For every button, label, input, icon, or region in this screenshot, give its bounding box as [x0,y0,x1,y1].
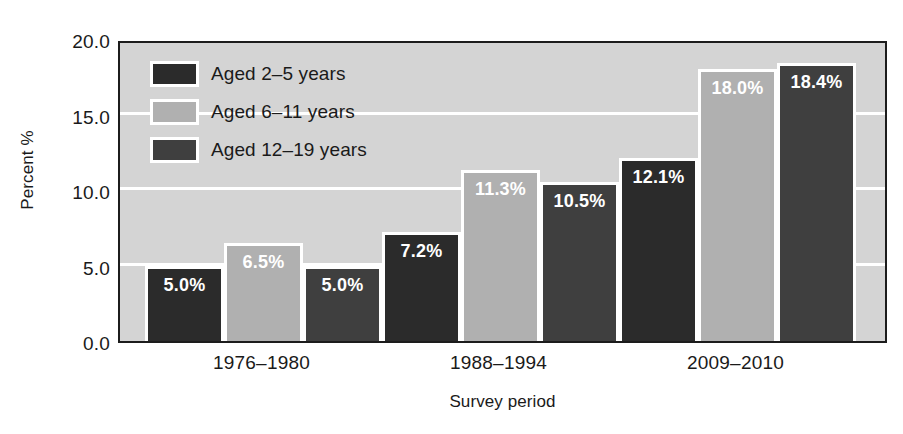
bar[interactable]: 10.5% [540,182,619,341]
bar-value-label: 10.5% [543,192,616,212]
bar[interactable]: 18.0% [698,69,777,341]
x-axis-tick-labels: 1976–19801988–19942009–2010 [118,352,887,378]
y-axis-tick-label: 20.0 [48,32,110,51]
bar-group: 7.2%11.3%10.5% [382,43,619,341]
bar-value-label: 5.0% [306,276,379,296]
y-axis-tick-label: 10.0 [48,183,110,202]
bar[interactable]: 12.1% [619,158,698,341]
legend-item[interactable]: Aged 6–11 years [150,93,367,131]
plot-area: 5.0%6.5%5.0%7.2%11.3%10.5%12.1%18.0%18.4… [118,41,887,343]
bar[interactable]: 5.0% [145,266,224,342]
bar-value-label: 6.5% [227,253,300,273]
legend-swatch [150,137,199,163]
y-axis-title: Percent % [18,80,38,260]
x-axis-tick-label: 2009–2010 [617,352,854,374]
y-axis-tick-label: 5.0 [48,259,110,278]
bar-group: 12.1%18.0%18.4% [619,43,856,341]
y-axis-tick-label: 0.0 [48,334,110,353]
legend-label: Aged 6–11 years [211,101,355,123]
y-axis-tick-labels: 20.015.010.05.00.0 [38,41,110,343]
bar-value-label: 18.0% [701,79,774,99]
bar-value-label: 5.0% [148,276,221,296]
legend-swatch [150,61,199,87]
bar[interactable]: 7.2% [382,232,461,341]
y-axis-tick-label: 15.0 [48,108,110,127]
legend-label: Aged 12–19 years [211,139,367,161]
bar-value-label: 11.3% [464,180,537,200]
x-axis-title: Survey period [118,392,887,412]
legend-label: Aged 2–5 years [211,63,346,85]
legend-item[interactable]: Aged 2–5 years [150,55,367,93]
legend: Aged 2–5 yearsAged 6–11 yearsAged 12–19 … [150,55,367,169]
bar-value-label: 12.1% [622,168,695,188]
legend-item[interactable]: Aged 12–19 years [150,131,367,169]
bar[interactable]: 6.5% [224,243,303,341]
legend-swatch [150,99,199,125]
bar[interactable]: 5.0% [303,266,382,342]
bar[interactable]: 11.3% [461,170,540,341]
x-axis-tick-label: 1976–1980 [143,352,380,374]
bar-value-label: 7.2% [385,242,458,262]
bar[interactable]: 18.4% [777,63,856,341]
bar-chart: Percent % 20.015.010.05.00.0 5.0%6.5%5.0… [0,0,903,434]
x-axis-tick-label: 1988–1994 [380,352,617,374]
bar-value-label: 18.4% [780,73,853,93]
